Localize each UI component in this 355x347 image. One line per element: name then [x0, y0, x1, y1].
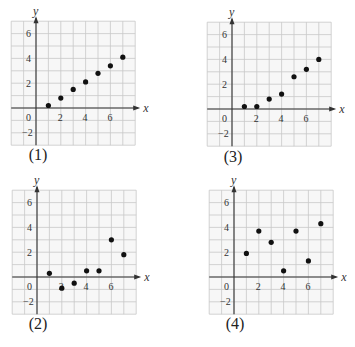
- x-tick-label: 2: [254, 113, 259, 124]
- x-tick-label: 6: [107, 112, 112, 123]
- y-tick-label: 4: [26, 53, 31, 64]
- y-tick-label: 2: [27, 247, 32, 258]
- chart-caption: (2): [29, 315, 48, 333]
- chart-caption: (1): [29, 146, 48, 164]
- data-point: [256, 229, 261, 234]
- data-point: [71, 87, 76, 92]
- scatter-chart-3: xy0246642−2(3): [207, 5, 345, 166]
- scatter-chart-2: xy0246642−2(2): [12, 173, 150, 333]
- data-point: [84, 268, 89, 273]
- x-axis-label: x: [143, 270, 150, 284]
- y-tick-label: −2: [22, 127, 33, 138]
- x-axis-label: x: [338, 102, 345, 116]
- data-point: [279, 92, 284, 97]
- data-point: [121, 252, 126, 257]
- y-tick-label: 4: [224, 222, 229, 233]
- data-point: [109, 237, 114, 242]
- data-point: [316, 57, 321, 62]
- charts-canvas: xy0246642−2(1)xy0246642−2(3)xy0246642−2(…: [0, 0, 355, 347]
- data-point: [267, 96, 272, 101]
- data-point: [254, 104, 259, 109]
- data-point: [108, 63, 113, 68]
- x-tick-label: 2: [256, 281, 261, 292]
- y-axis-label: y: [228, 5, 235, 19]
- y-tick-label: 4: [222, 54, 227, 65]
- x-axis-arrow-icon: [133, 106, 140, 111]
- data-point: [83, 79, 88, 84]
- data-point: [244, 251, 249, 256]
- x-axis-arrow-icon: [329, 107, 336, 112]
- chart-caption: (3): [224, 148, 243, 166]
- x-tick-label: 6: [108, 281, 113, 292]
- data-point: [120, 55, 125, 60]
- x-tick-label: 4: [83, 112, 88, 123]
- x-axis-label: x: [340, 270, 347, 284]
- y-tick-label: −2: [220, 296, 231, 307]
- data-point: [59, 286, 64, 291]
- x-tick-label: 4: [84, 281, 89, 292]
- y-tick-label: 6: [222, 29, 227, 40]
- data-point: [291, 74, 296, 79]
- data-point: [242, 104, 247, 109]
- scatter-chart-4: xy0246642−2(4): [209, 173, 347, 333]
- data-point: [293, 229, 298, 234]
- y-tick-label: 2: [224, 247, 229, 258]
- x-tick-label: 4: [279, 113, 284, 124]
- x-tick-label: 6: [303, 113, 308, 124]
- y-axis-label: y: [32, 4, 39, 18]
- y-tick-label: −2: [23, 296, 34, 307]
- scatter-chart-1: xy0246642−2(1): [11, 4, 149, 164]
- data-point: [47, 271, 52, 276]
- data-point: [269, 240, 274, 245]
- x-tick-label: 0: [26, 112, 31, 123]
- x-tick-label: 0: [224, 281, 229, 292]
- y-tick-label: 6: [27, 197, 32, 208]
- data-point: [72, 281, 77, 286]
- x-tick-label: 6: [305, 281, 310, 292]
- data-point: [58, 95, 63, 100]
- data-point: [306, 258, 311, 263]
- x-axis-label: x: [142, 101, 149, 115]
- data-point: [95, 71, 100, 76]
- x-tick-label: 0: [222, 113, 227, 124]
- y-tick-label: 6: [224, 197, 229, 208]
- y-axis-label: y: [33, 173, 40, 187]
- y-axis-label: y: [230, 173, 237, 187]
- x-axis-arrow-icon: [134, 275, 141, 280]
- data-point: [46, 103, 51, 108]
- data-point: [318, 221, 323, 226]
- y-tick-label: 2: [26, 78, 31, 89]
- data-point: [281, 268, 286, 273]
- data-point: [96, 268, 101, 273]
- x-tick-label: 4: [281, 281, 286, 292]
- y-tick-label: 4: [27, 222, 32, 233]
- x-tick-label: 2: [58, 112, 63, 123]
- y-tick-label: −2: [218, 128, 229, 139]
- x-tick-label: 0: [27, 281, 32, 292]
- x-axis-arrow-icon: [331, 275, 338, 280]
- y-tick-label: 6: [26, 28, 31, 39]
- chart-caption: (4): [226, 315, 245, 333]
- y-tick-label: 2: [222, 79, 227, 90]
- data-point: [304, 67, 309, 72]
